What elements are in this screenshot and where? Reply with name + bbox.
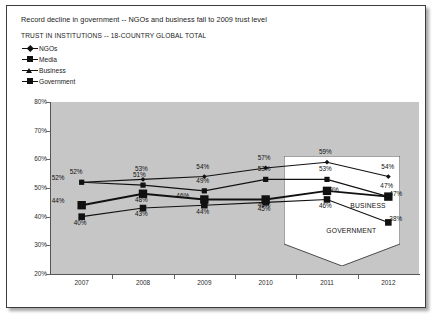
data-label: 47% [389, 190, 402, 197]
data-label: 53% [258, 165, 271, 172]
data-label: 45% [258, 205, 271, 212]
data-label: 54% [381, 163, 394, 170]
data-label: 44% [52, 197, 65, 204]
data-point-marker [263, 177, 268, 182]
data-label: 57% [258, 154, 271, 161]
data-label: 40% [74, 219, 87, 226]
data-label: 52% [70, 168, 83, 175]
data-label: 43% [135, 210, 148, 217]
data-label: 46% [176, 192, 189, 199]
data-label: 52% [52, 174, 65, 181]
data-label: 46% [319, 202, 332, 209]
data-point-marker [77, 201, 85, 209]
data-label: 48% [135, 196, 148, 203]
data-point-marker [325, 160, 330, 165]
data-label: 38% [389, 215, 402, 222]
slide-frame: Record decline in government -- NGOs and… [6, 5, 426, 308]
data-label: 54% [196, 163, 209, 170]
data-label: 49% [196, 177, 209, 184]
series-end-label-business: BUSINESS [350, 202, 385, 209]
data-label: 53% [319, 165, 332, 172]
data-point-marker [79, 180, 84, 185]
data-label: 47% [380, 182, 393, 189]
data-point-marker [140, 183, 145, 188]
data-point-marker [386, 174, 391, 179]
series-lines [7, 6, 427, 309]
data-label: 59% [319, 148, 332, 155]
line-chart: 20%30%40%50%60%70%80% 200720082009201020… [7, 6, 427, 309]
data-label: 49% [326, 186, 339, 193]
series-government [78, 196, 391, 226]
data-point-marker [324, 177, 329, 182]
data-label: 44% [196, 208, 209, 215]
data-point-marker [202, 188, 207, 193]
data-label: 51% [133, 171, 146, 178]
series-end-label-government: GOVERNMENT [326, 227, 376, 234]
series-ngos [79, 160, 390, 185]
